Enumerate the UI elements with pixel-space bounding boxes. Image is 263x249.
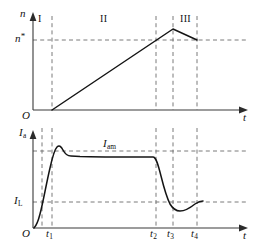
speed-plot-axes — [30, 12, 248, 113]
current-limit-subscript: am — [107, 142, 116, 151]
tick-t4-subscript: 4 — [194, 232, 198, 241]
current-load-subscript: L — [18, 199, 23, 208]
speed-plot-dashed-grid — [33, 16, 248, 110]
figure-root: n n* O t I II III Ia Iam IL O t t1 t2 t3 — [0, 0, 263, 249]
current-limit-label: Iam — [103, 138, 116, 149]
stage-2-label: II — [100, 14, 107, 24]
tick-t2-subscript: 2 — [153, 232, 157, 241]
current-plot-dashed-grid — [33, 128, 248, 228]
current-origin-label: O — [22, 228, 30, 239]
speed-x-axis-label: t — [243, 112, 246, 123]
speed-y-axis-label: n — [20, 8, 26, 19]
speed-curve — [52, 29, 197, 110]
stage-3-label: III — [180, 14, 191, 24]
stage-1-label: I — [38, 14, 42, 24]
tick-t1-subscript: 1 — [49, 232, 53, 241]
tick-label-t4: t4 — [191, 229, 198, 240]
current-x-axis-label: t — [243, 230, 246, 241]
current-y-axis-arrow-icon — [30, 130, 37, 139]
tick-t3-subscript: 3 — [170, 232, 174, 241]
current-y-axis-label: Ia — [19, 127, 26, 138]
tick-label-t1: t1 — [46, 229, 53, 240]
tick-label-t2: t2 — [150, 229, 157, 240]
speed-origin-label: O — [22, 110, 30, 121]
tick-label-t3: t3 — [167, 229, 174, 240]
current-y-axis-subscript: a — [23, 131, 26, 140]
figure-canvas — [0, 0, 263, 249]
speed-level-label: n* — [15, 33, 25, 44]
current-load-label: IL — [14, 195, 22, 206]
current-plot-axes — [30, 130, 248, 231]
speed-level-superscript: * — [21, 31, 26, 41]
speed-y-axis-arrow-icon — [30, 12, 37, 21]
current-curve — [34, 146, 203, 228]
